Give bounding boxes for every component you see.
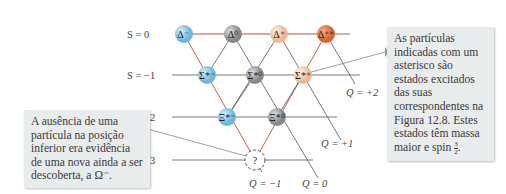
particle-delta-minus: Δ⁻ [175, 25, 193, 43]
particle-omega-unknown: ? [245, 150, 265, 170]
svg-text:Δ⁻: Δ⁻ [177, 29, 188, 40]
particle-xi-star-minus: Ξ*⁻ [218, 108, 236, 126]
q-minus1-label: Q = −1 [249, 178, 281, 189]
spin-fraction: 32 [454, 141, 458, 156]
svg-text:Σ*⁺: Σ*⁺ [295, 70, 311, 81]
excited-states-note: As partículas indicadas com um asterisco… [387, 27, 494, 161]
svg-text:Ξ*⁻: Ξ*⁻ [219, 112, 235, 123]
particle-delta-plus: Δ⁺ [270, 25, 288, 43]
svg-text:Δ⁺: Δ⁺ [273, 29, 284, 40]
q-plus2-label: Q = +2 [346, 87, 379, 98]
q-plus1-label: Q = +1 [321, 138, 353, 149]
svg-text:Σ*⁻: Σ*⁻ [199, 70, 215, 81]
svg-text:Δ⁺⁺: Δ⁺⁺ [318, 29, 334, 40]
particle-delta-plusplus: Δ⁺⁺ [317, 25, 335, 43]
svg-text:Ξ*⁰: Ξ*⁰ [269, 112, 284, 123]
particle-delta-zero: Δ⁰ [224, 25, 242, 43]
s0-label: S = 0 [127, 29, 149, 40]
svg-text:?: ? [253, 155, 258, 166]
particle-sigma-star-zero: Σ*⁰ [246, 66, 264, 84]
particle-sigma-star-minus: Σ*⁻ [198, 66, 216, 84]
particle-sigma-star-plus: Σ*⁺ [294, 66, 312, 84]
q0-label: Q = 0 [302, 178, 328, 189]
q1-line [279, 34, 341, 140]
s-minus1-label: S = −1 [127, 70, 155, 81]
svg-text:Σ*⁰: Σ*⁰ [248, 70, 263, 81]
particle-xi-star-zero: Ξ*⁰ [268, 108, 286, 126]
svg-text:Δ⁰: Δ⁰ [228, 29, 238, 40]
omega-prediction-note: A ausência de uma partícula na posição i… [24, 110, 150, 188]
